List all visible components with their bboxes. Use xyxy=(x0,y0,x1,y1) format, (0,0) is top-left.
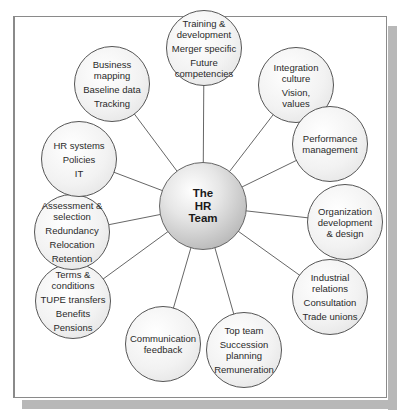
node-text: Pensions xyxy=(53,322,92,333)
node-text: Baseline data xyxy=(83,84,141,95)
node-assessment: Assessment & selection Redundancy Reloca… xyxy=(34,194,110,270)
center-line: Team xyxy=(188,212,217,225)
center-node-hr-team: The HR Team xyxy=(159,162,247,250)
node-text: Vision, values xyxy=(276,87,316,109)
node-text: Industrial relations xyxy=(305,272,355,294)
node-text: Retention xyxy=(52,253,93,264)
node-text: Succession planning xyxy=(216,339,272,361)
node-text: Remuneration xyxy=(214,364,274,375)
node-text: Integration culture xyxy=(268,62,324,84)
node-text: Communication feedback xyxy=(127,333,199,355)
node-text: Business mapping xyxy=(87,59,137,81)
node-organization: Organization development & design xyxy=(307,184,383,260)
node-text: Consultation xyxy=(304,297,357,308)
node-text: Benefits xyxy=(56,308,90,319)
node-text: Top team xyxy=(224,325,263,336)
node-text: TUPE transfers xyxy=(41,294,106,305)
node-training: Training & development Merger specific F… xyxy=(166,10,242,86)
node-text: IT xyxy=(75,168,83,179)
node-text: Future competencies xyxy=(174,57,234,79)
node-text: Merger specific xyxy=(172,43,236,54)
node-text: Tracking xyxy=(94,98,130,109)
node-top-team: Top team Succession planning Remuneratio… xyxy=(206,312,282,388)
node-terms: Terms & conditions TUPE transfers Benefi… xyxy=(35,263,111,339)
node-text: Assessment & selection xyxy=(41,200,103,222)
node-business: Business mapping Baseline data Tracking xyxy=(74,46,150,122)
node-text: Training & development xyxy=(175,18,233,40)
node-text: Organization development & design xyxy=(314,206,376,239)
node-industrial: Industrial relations Consultation Trade … xyxy=(292,259,368,335)
node-text: Redundancy xyxy=(45,225,98,236)
node-performance: Performance management xyxy=(292,106,368,182)
center-line: HR xyxy=(195,200,212,213)
node-hr-systems: HR systems Policies IT xyxy=(41,121,117,197)
node-communication: Communication feedback xyxy=(125,306,201,382)
node-text: HR systems xyxy=(53,140,104,151)
node-text: Terms & conditions xyxy=(45,269,101,291)
node-text: Trade unions xyxy=(302,311,357,322)
node-text: Policies xyxy=(63,154,96,165)
node-text: Performance management xyxy=(299,133,361,155)
center-line: The xyxy=(193,187,213,200)
node-text: Relocation xyxy=(50,239,95,250)
